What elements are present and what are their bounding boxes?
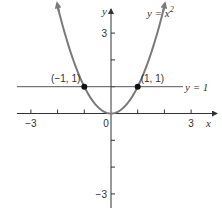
x-axis-label: x xyxy=(205,117,211,129)
chart: −3033−3xyy = x2y = 1(−1, 1)(1, 1) xyxy=(0,0,222,222)
intersection-point-label: (−1, 1) xyxy=(51,73,80,84)
intersection-point-label: (1, 1) xyxy=(141,73,164,84)
y-axis-label: y xyxy=(101,5,107,17)
x-tick-label: 3 xyxy=(188,118,194,129)
x-tick-label: −3 xyxy=(25,118,37,129)
y-tick-label: 3 xyxy=(101,28,107,39)
line-y-equals-1-label: y = 1 xyxy=(184,81,208,93)
y-tick-label: −3 xyxy=(96,189,108,200)
parabola-label-exponent: 2 xyxy=(170,5,174,14)
parabola-label: y = x2 xyxy=(146,5,174,19)
intersection-point xyxy=(135,84,141,90)
intersection-point xyxy=(81,84,87,90)
parabola-arrow-left xyxy=(57,3,59,11)
x-tick-label: 0 xyxy=(103,118,109,129)
